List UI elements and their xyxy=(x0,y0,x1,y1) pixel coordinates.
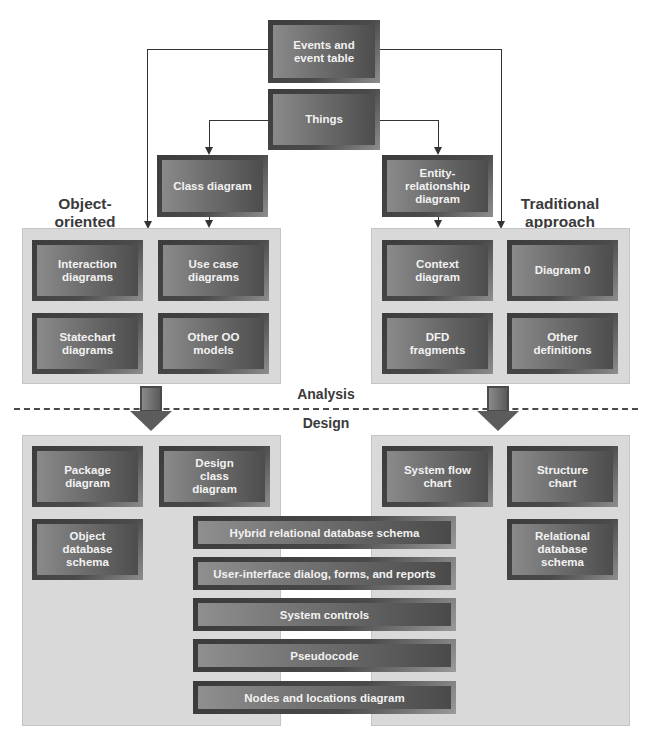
structure-chart-label: Structure chart xyxy=(512,451,613,502)
package-diagram-label: Package diagram xyxy=(37,451,138,502)
system-flow-chart-box: System flow chart xyxy=(382,446,493,507)
er-diagram-box: Entity-relationship diagram xyxy=(382,155,493,217)
analysis-label: Analysis xyxy=(276,386,376,402)
design-label: Design xyxy=(276,415,376,431)
system-controls-bar: System controls xyxy=(193,598,456,631)
relational-database-schema-label: Relational database schema xyxy=(512,524,613,575)
use-case-diagrams-label: Use case diagrams xyxy=(163,245,264,296)
class-diagram-box: Class diagram xyxy=(157,155,268,217)
connector-events-right-h xyxy=(380,49,501,50)
analysis-traditional-panel: Context diagram Diagram 0 DFD fragments … xyxy=(371,228,630,384)
pseudocode-bar: Pseudocode xyxy=(193,639,456,672)
ui-dialog-label: User-interface dialog, forms, and report… xyxy=(198,562,451,585)
connector-things-right-v xyxy=(438,120,439,148)
structure-chart-box: Structure chart xyxy=(507,446,618,507)
context-diagram-box: Context diagram xyxy=(382,240,493,301)
statechart-diagrams-box: Statechart diagrams xyxy=(32,313,143,374)
dfd-fragments-label: DFD fragments xyxy=(387,318,488,369)
object-database-schema-box: Object database schema xyxy=(32,519,143,580)
events-box-label: Events and event table xyxy=(273,25,375,78)
connector-things-left-v xyxy=(209,120,210,148)
diagram-0-label: Diagram 0 xyxy=(512,245,613,296)
dfd-fragments-box: DFD fragments xyxy=(382,313,493,374)
package-diagram-box: Package diagram xyxy=(32,446,143,507)
arrowhead-icon xyxy=(205,220,213,228)
traditional-approach-label: Traditional approach xyxy=(510,195,610,231)
er-diagram-label: Entity-relationship diagram xyxy=(387,160,488,212)
arrowhead-icon xyxy=(205,147,213,155)
hybrid-schema-label: Hybrid relational database schema xyxy=(198,521,451,544)
other-definitions-label: Other definitions xyxy=(512,318,613,369)
arrowhead-icon xyxy=(434,147,442,155)
context-diagram-label: Context diagram xyxy=(387,245,488,296)
connector-things-left-h xyxy=(209,120,268,121)
phase-divider-line xyxy=(14,408,638,410)
ui-dialog-bar: User-interface dialog, forms, and report… xyxy=(193,557,456,590)
connector-things-right-h xyxy=(380,120,439,121)
connector-events-right-v xyxy=(501,49,502,221)
hybrid-schema-bar: Hybrid relational database schema xyxy=(193,516,456,549)
system-flow-chart-label: System flow chart xyxy=(387,451,488,502)
analysis-oo-panel: Interaction diagrams Use case diagrams S… xyxy=(22,228,281,384)
class-diagram-label: Class diagram xyxy=(162,160,263,212)
arrowhead-icon xyxy=(434,220,442,228)
design-class-diagram-label: Design class diagram xyxy=(164,451,265,502)
design-class-diagram-box: Design class diagram xyxy=(159,446,270,507)
things-box: Things xyxy=(268,89,380,150)
other-definitions-box: Other definitions xyxy=(507,313,618,374)
diagram-0-box: Diagram 0 xyxy=(507,240,618,301)
connector-events-left-h xyxy=(147,49,268,50)
use-case-diagrams-box: Use case diagrams xyxy=(158,240,269,301)
things-box-label: Things xyxy=(273,94,375,145)
traditional-transition-arrow-icon xyxy=(477,386,519,432)
events-box: Events and event table xyxy=(268,20,380,83)
statechart-diagrams-label: Statechart diagrams xyxy=(37,318,138,369)
relational-database-schema-box: Relational database schema xyxy=(507,519,618,580)
other-oo-models-label: Other OO models xyxy=(163,318,264,369)
interaction-diagrams-label: Interaction diagrams xyxy=(37,245,138,296)
interaction-diagrams-box: Interaction diagrams xyxy=(32,240,143,301)
nodes-locations-bar: Nodes and locations diagram xyxy=(193,681,456,714)
nodes-locations-label: Nodes and locations diagram xyxy=(198,686,451,709)
connector-events-left-v xyxy=(147,49,148,221)
pseudocode-label: Pseudocode xyxy=(198,644,451,667)
other-oo-models-box: Other OO models xyxy=(158,313,269,374)
system-controls-label: System controls xyxy=(198,603,451,626)
oo-transition-arrow-icon xyxy=(130,386,172,432)
object-database-schema-label: Object database schema xyxy=(37,524,138,575)
